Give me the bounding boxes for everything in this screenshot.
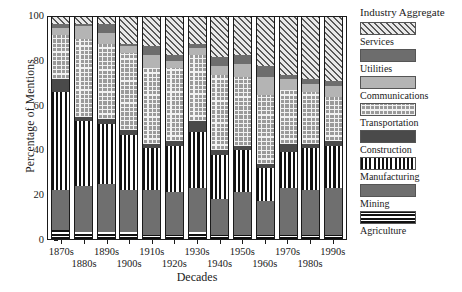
y-tick-label-40: 40 xyxy=(18,145,44,155)
legend-swatch-communications xyxy=(360,76,416,89)
bar-1880s xyxy=(74,17,93,239)
bar-segment-services xyxy=(98,17,115,24)
bar-segment-mining xyxy=(143,190,160,234)
bar-segment-communications xyxy=(52,28,69,35)
x-tick-label-1880s: 1880s xyxy=(62,258,106,269)
y-tick-label-80: 80 xyxy=(18,56,44,66)
bar-segment-communications xyxy=(189,48,206,55)
bar-1920s xyxy=(165,17,184,239)
bar-segment-transportation xyxy=(189,55,206,122)
bar-segment-services xyxy=(234,17,251,55)
legend-label-services: Services xyxy=(360,35,460,48)
bar-segment-agriculture xyxy=(302,235,319,239)
bar-segment-mining xyxy=(325,188,342,235)
bar-1990s xyxy=(324,17,343,239)
y-tick-label-60: 60 xyxy=(18,101,44,111)
bar-segment-transportation xyxy=(302,92,319,143)
x-tick-mark xyxy=(61,240,62,244)
legend-item-services[interactable]: Services xyxy=(360,22,460,48)
bar-1970s xyxy=(279,17,298,239)
bar-segment-manufacturing xyxy=(234,150,251,192)
x-tick-mark xyxy=(265,240,266,244)
bar-segment-manufacturing xyxy=(98,124,115,184)
legend-item-manufacturing[interactable]: Manufacturing xyxy=(360,157,460,183)
x-tick-label-1960s: 1960s xyxy=(243,258,287,269)
bar-group xyxy=(48,17,346,239)
bar-segment-manufacturing xyxy=(280,152,297,188)
legend-swatch-transportation xyxy=(360,103,416,116)
legend-label-agriculture: Agriculture xyxy=(360,224,460,237)
bar-segment-utilities xyxy=(143,46,160,55)
bar-segment-mining xyxy=(166,192,183,234)
x-tick-label-1970s: 1970s xyxy=(265,246,309,257)
bar-segment-agriculture xyxy=(257,235,274,239)
x-tick-label-1870s: 1870s xyxy=(39,246,83,257)
x-axis-title: Decades xyxy=(47,270,347,285)
bar-segment-manufacturing xyxy=(257,168,274,201)
bar-segment-transportation xyxy=(120,53,137,131)
bar-segment-construction xyxy=(280,144,297,153)
legend-item-mining[interactable]: Mining xyxy=(360,184,460,210)
bar-segment-transportation xyxy=(75,39,92,117)
bar-segment-utilities xyxy=(166,55,183,62)
bar-segment-services xyxy=(211,17,228,57)
legend: Industry Aggregate ServicesUtilitiesComm… xyxy=(360,6,460,238)
legend-swatch-mining xyxy=(360,184,416,197)
bar-segment-transportation xyxy=(280,90,297,143)
bar-1960s xyxy=(256,17,275,239)
bar-segment-manufacturing xyxy=(52,92,69,190)
bar-segment-transportation xyxy=(325,97,342,141)
legend-swatch-agriculture xyxy=(360,211,416,224)
legend-label-transportation: Transportation xyxy=(360,116,460,129)
x-tick-mark xyxy=(333,240,334,244)
bar-segment-agriculture xyxy=(325,235,342,239)
bar-segment-transportation xyxy=(98,44,115,120)
y-tick-mark xyxy=(54,240,58,241)
bar-segment-utilities xyxy=(98,24,115,33)
legend-item-transportation[interactable]: Transportation xyxy=(360,103,460,129)
bar-segment-agriculture xyxy=(166,235,183,239)
bar-segment-manufacturing xyxy=(302,148,319,190)
x-tick-mark xyxy=(220,240,221,244)
bar-segment-services xyxy=(325,17,342,81)
bar-segment-agriculture xyxy=(280,235,297,239)
bar-segment-mining xyxy=(302,190,319,234)
bar-segment-mining xyxy=(280,188,297,235)
y-tick-label-100: 100 xyxy=(18,11,44,21)
bar-segment-services xyxy=(75,17,92,24)
bar-segment-communications xyxy=(75,26,92,39)
bar-segment-communications xyxy=(280,79,297,90)
x-tick-mark xyxy=(107,240,108,244)
legend-swatch-manufacturing xyxy=(360,157,416,170)
x-tick-label-1920s: 1920s xyxy=(152,258,196,269)
x-tick-label-1890s: 1890s xyxy=(85,246,129,257)
bar-segment-construction xyxy=(52,79,69,92)
y-tick-label-0: 0 xyxy=(18,235,44,245)
bar-segment-mining xyxy=(120,190,137,232)
bar-segment-agriculture xyxy=(52,230,69,239)
x-tick-mark xyxy=(287,240,288,244)
legend-item-construction[interactable]: Construction xyxy=(360,130,460,156)
bar-segment-agriculture xyxy=(211,235,228,239)
bar-segment-mining xyxy=(52,190,69,230)
x-tick-mark xyxy=(152,240,153,244)
legend-item-utilities[interactable]: Utilities xyxy=(360,49,460,75)
legend-label-manufacturing: Manufacturing xyxy=(360,170,460,183)
legend-label-utilities: Utilities xyxy=(360,62,460,75)
bar-segment-mining xyxy=(257,201,274,234)
bar-segment-services xyxy=(302,17,319,79)
legend-item-communications[interactable]: Communications xyxy=(360,76,460,102)
bar-segment-communications xyxy=(143,55,160,68)
x-tick-label-1990s: 1990s xyxy=(311,246,355,257)
bar-segment-agriculture xyxy=(234,235,251,239)
x-tick-mark xyxy=(84,240,85,244)
bar-segment-transportation xyxy=(257,95,274,164)
x-tick-mark xyxy=(129,240,130,244)
bar-segment-services xyxy=(257,17,274,66)
legend-swatch-services xyxy=(360,22,416,35)
bar-1980s xyxy=(301,17,320,239)
bar-segment-manufacturing xyxy=(166,146,183,193)
legend-item-agriculture[interactable]: Agriculture xyxy=(360,211,460,237)
bar-segment-manufacturing xyxy=(211,155,228,199)
legend-label-construction: Construction xyxy=(360,143,460,156)
